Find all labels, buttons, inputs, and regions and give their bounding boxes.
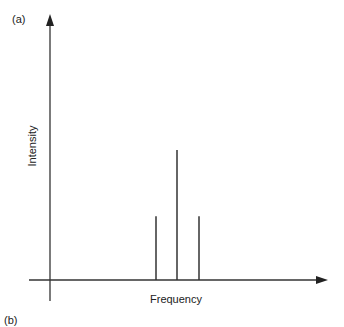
x-axis-label: Frequency: [150, 293, 202, 305]
spectral-lines: [156, 150, 199, 280]
spectrum-plot: [0, 0, 344, 327]
y-axis-label: Intensity: [26, 118, 38, 174]
x-axis-arrow-icon: [316, 276, 328, 284]
y-axis-arrow-icon: [46, 14, 54, 26]
panel-label-b: (b): [4, 314, 17, 326]
